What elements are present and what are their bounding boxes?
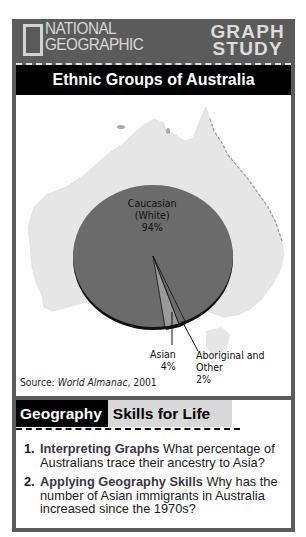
skills-for-life-box: Geography Skills for Life 1. Interpretin… (12, 399, 295, 532)
label-asian: Asian 4% (147, 348, 176, 372)
label-aboriginal: Aboriginal and Other 2% (196, 349, 265, 385)
skills-divider (16, 428, 240, 430)
question-item: 1. Interpreting Graphs What percentage o… (22, 442, 282, 469)
graph-study-panel: NATIONAL GEOGRAPHIC GRAPH STUDY Ethnic G… (12, 19, 295, 399)
question-list: 1. Interpreting Graphs What percentage o… (22, 442, 282, 522)
label-caucasian: Caucasian (White) 94% (127, 197, 177, 233)
geography-tab-label: Geography (16, 400, 108, 427)
brand-line-2: GEOGRAPHIC (45, 37, 143, 53)
map-chart-area: Caucasian (White) 94% Asian 4% Aborigina… (16, 95, 291, 396)
skills-for-life-tab-label: Skills for Life (108, 400, 232, 427)
brand-name: NATIONAL GEOGRAPHIC (45, 21, 143, 53)
graph-study-header: NATIONAL GEOGRAPHIC GRAPH STUDY (12, 19, 295, 65)
skills-tab-header: Geography Skills for Life (16, 400, 232, 427)
feature-line-2: STUDY (210, 40, 285, 57)
question-item: 2. Applying Geography Skills Why has the… (22, 475, 282, 516)
chart-title: Ethnic Groups of Australia (16, 65, 291, 95)
question-number: 1. (24, 442, 35, 456)
aboriginal-leader-line (182, 321, 198, 351)
national-geographic-logo-icon (23, 24, 43, 56)
question-number: 2. (24, 475, 35, 489)
chart-source: Source: World Almanac, 2001 (20, 377, 157, 388)
feature-label: GRAPH STUDY (210, 23, 285, 57)
